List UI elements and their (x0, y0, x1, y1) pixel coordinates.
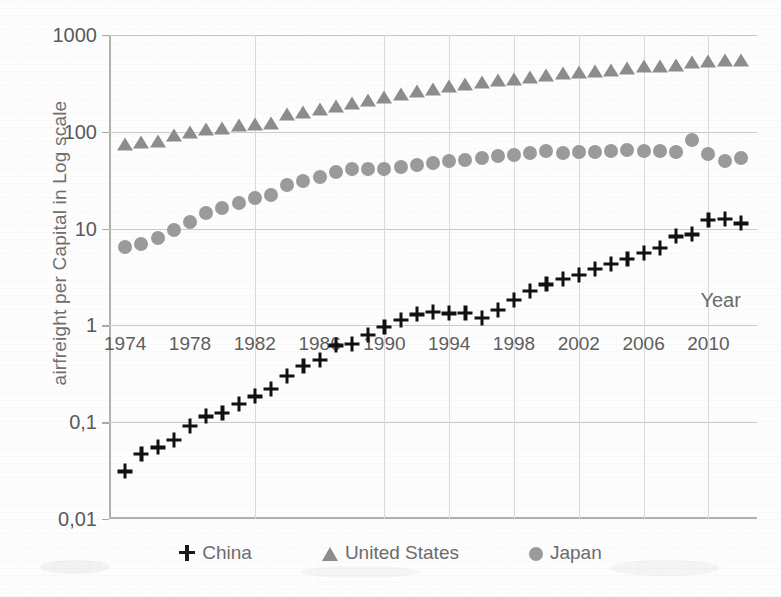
data-point-united-states (409, 85, 425, 98)
data-point-united-states (506, 72, 522, 85)
data-point-japan (280, 178, 294, 192)
data-point-china (409, 307, 424, 322)
data-point-japan (345, 162, 359, 176)
data-point-japan (183, 215, 197, 229)
data-point-china (183, 418, 198, 433)
data-point-united-states (652, 59, 668, 72)
data-point-united-states (522, 70, 538, 83)
data-point-japan (475, 151, 489, 165)
x-tick-label: 2010 (687, 333, 729, 355)
data-point-japan (361, 162, 375, 176)
data-point-united-states (474, 75, 490, 88)
y-tick-mark (102, 325, 109, 326)
x-tick-label: 1998 (493, 333, 535, 355)
data-point-china (312, 352, 327, 367)
data-point-united-states (717, 53, 733, 66)
y-tick-label: 0,1 (69, 411, 97, 434)
data-point-china (490, 302, 505, 317)
x-gridline (514, 35, 515, 519)
y-tick-mark (102, 229, 109, 230)
x-tick-label: 2006 (622, 333, 664, 355)
triangle-marker-icon (322, 547, 338, 561)
data-point-japan (523, 146, 537, 160)
data-point-japan (215, 201, 229, 215)
data-point-united-states (344, 96, 360, 109)
data-point-japan (167, 223, 181, 237)
data-point-china (717, 212, 732, 227)
data-point-japan (539, 144, 553, 158)
data-point-japan (134, 237, 148, 251)
data-point-china (377, 320, 392, 335)
legend-label: Japan (550, 542, 602, 564)
data-point-china (733, 216, 748, 231)
data-point-china (636, 245, 651, 260)
y-tick-mark (102, 35, 109, 36)
data-point-japan (151, 231, 165, 245)
data-point-china (523, 284, 538, 299)
data-point-china (280, 369, 295, 384)
data-point-japan (296, 174, 310, 188)
data-point-china (215, 405, 230, 420)
data-point-united-states (295, 106, 311, 119)
data-point-united-states (231, 118, 247, 131)
data-point-japan (701, 147, 715, 161)
data-point-japan (718, 154, 732, 168)
x-gridline (384, 35, 385, 519)
x-tick-label: 2002 (558, 333, 600, 355)
data-point-japan (232, 196, 246, 210)
data-point-united-states (425, 82, 441, 95)
data-point-japan (604, 144, 618, 158)
data-point-united-states (441, 80, 457, 93)
data-point-united-states (117, 137, 133, 150)
legend-item-united-states[interactable]: United States (322, 542, 459, 564)
data-point-japan (507, 148, 521, 162)
data-point-japan (377, 162, 391, 176)
data-point-china (539, 277, 554, 292)
data-point-united-states (328, 99, 344, 112)
data-point-china (426, 304, 441, 319)
legend-item-china[interactable]: China (179, 542, 252, 564)
plot-area: 0,010,11101001000 1974197819821986199019… (109, 35, 757, 519)
y-tick-label: 1 (86, 314, 97, 337)
data-point-china (150, 440, 165, 455)
y-tick-mark (102, 132, 109, 133)
legend-item-japan[interactable]: Japan (529, 542, 602, 564)
data-point-china (328, 338, 343, 353)
data-point-china (458, 305, 473, 320)
data-point-united-states (619, 61, 635, 74)
data-point-united-states (457, 78, 473, 91)
x-tick-label: 1982 (234, 333, 276, 355)
data-point-united-states (214, 121, 230, 134)
data-point-china (604, 256, 619, 271)
data-point-china (264, 382, 279, 397)
data-point-united-states (376, 90, 392, 103)
data-point-united-states (538, 68, 554, 81)
data-point-united-states (279, 108, 295, 121)
legend-label: China (202, 542, 252, 564)
data-point-china (118, 464, 133, 479)
data-point-china (571, 268, 586, 283)
data-point-china (588, 262, 603, 277)
x-gridline (255, 35, 256, 519)
y-gridline (109, 325, 757, 326)
data-point-japan (556, 146, 570, 160)
data-point-japan (329, 165, 343, 179)
data-point-china (507, 292, 522, 307)
y-tick-mark (102, 519, 109, 520)
data-point-china (442, 306, 457, 321)
chart-legend: ChinaUnited StatesJapan (0, 542, 781, 564)
data-point-china (247, 389, 262, 404)
data-point-china (345, 336, 360, 351)
legend-label: United States (345, 542, 459, 564)
y-gridline (109, 229, 757, 230)
data-point-china (361, 327, 376, 342)
data-point-china (199, 409, 214, 424)
data-point-united-states (668, 58, 684, 71)
data-point-united-states (133, 136, 149, 149)
data-point-united-states (490, 73, 506, 86)
data-point-japan (426, 156, 440, 170)
data-point-china (555, 271, 570, 286)
x-tick-label: 1994 (428, 333, 470, 355)
data-point-japan (264, 188, 278, 202)
data-point-china (393, 312, 408, 327)
